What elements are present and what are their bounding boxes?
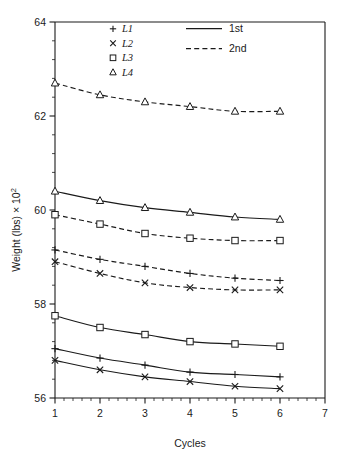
legend-label-2nd: 2nd: [229, 42, 247, 54]
y-tick-label: 60: [34, 204, 46, 216]
chart-background: [0, 0, 343, 456]
x-tick-label: 5: [232, 407, 238, 419]
marker-square: [97, 221, 103, 227]
x-tick-label: 3: [142, 407, 148, 419]
x-tick-label: 1: [52, 407, 58, 419]
marker-square: [277, 343, 283, 349]
x-tick-label: 6: [277, 407, 283, 419]
marker-square: [97, 324, 103, 330]
square-marker-icon: [52, 313, 58, 319]
square-marker-icon: [97, 324, 103, 330]
square-marker-icon: [232, 237, 238, 243]
square-marker-icon: [187, 338, 193, 344]
square-marker-icon: [52, 212, 58, 218]
x-tick-label: 2: [97, 407, 103, 419]
y-tick-label: 64: [34, 16, 46, 28]
marker-square: [52, 313, 58, 319]
y-axis-title: Weight (lbs) × 102: [9, 188, 23, 272]
square-marker-icon: [277, 343, 283, 349]
y-tick-label: 58: [34, 298, 46, 310]
legend-label-l2: L2: [121, 38, 134, 49]
square-marker-icon: [110, 55, 116, 61]
legend-label-l4: L4: [121, 67, 134, 78]
marker-square: [142, 331, 148, 337]
legend-label-l3: L3: [121, 52, 133, 63]
marker-square: [187, 338, 193, 344]
marker-square: [142, 230, 148, 236]
square-marker-icon: [142, 230, 148, 236]
square-marker-icon: [277, 237, 283, 243]
square-marker-icon: [187, 235, 193, 241]
marker-square: [277, 237, 283, 243]
x-axis-title-text: Cycles: [174, 437, 206, 449]
y-tick-label: 62: [34, 110, 46, 122]
y-axis-title-text: Weight (lbs) × 102: [9, 188, 23, 272]
square-marker-icon: [142, 331, 148, 337]
legend-label-l1: L1: [121, 23, 133, 34]
legend-label-1st: 1st: [229, 22, 243, 34]
chart-figure: 5658606264 1234567 Weight (lbs) × 102 Cy…: [0, 0, 343, 456]
weight-vs-cycles-line-chart: 5658606264 1234567 Weight (lbs) × 102 Cy…: [0, 0, 343, 456]
square-marker-icon: [232, 341, 238, 347]
marker-square: [110, 55, 116, 61]
x-tick-label: 4: [187, 407, 193, 419]
marker-square: [232, 237, 238, 243]
marker-square: [232, 341, 238, 347]
marker-square: [52, 212, 58, 218]
x-tick-label: 7: [322, 407, 328, 419]
marker-square: [187, 235, 193, 241]
y-tick-label: 56: [34, 392, 46, 404]
square-marker-icon: [97, 221, 103, 227]
